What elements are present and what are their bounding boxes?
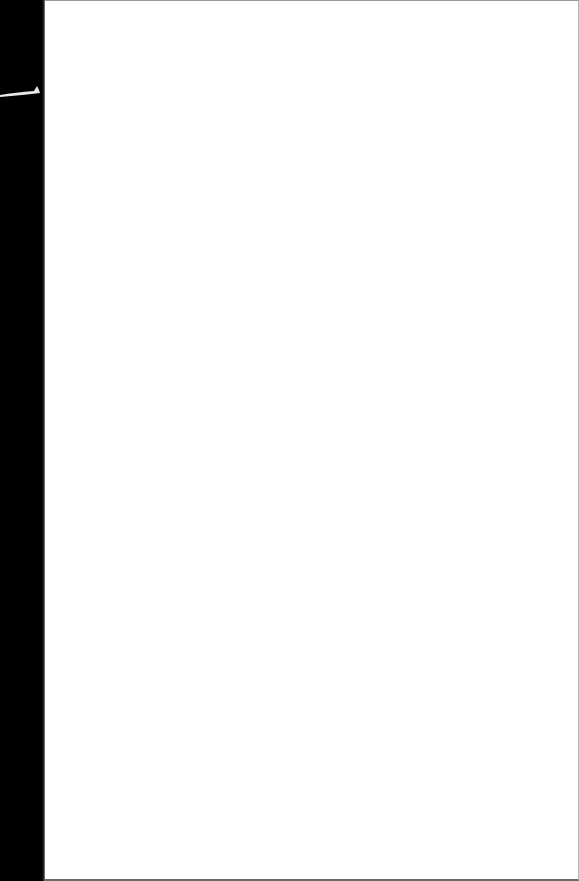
scan-margin-left: [0, 0, 44, 881]
torn-paper-fleck: [0, 84, 42, 98]
blank-page: [45, 0, 579, 881]
page-content: [45, 1, 578, 879]
